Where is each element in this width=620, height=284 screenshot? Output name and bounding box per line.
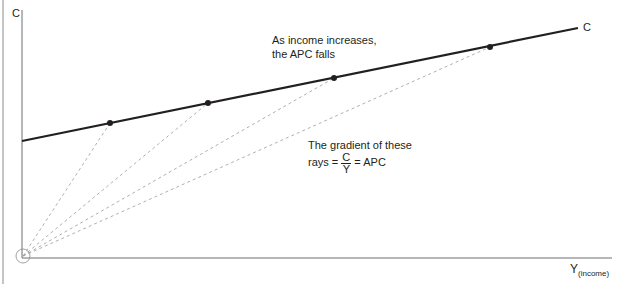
gradient-suffix: = APC xyxy=(354,156,386,168)
x-axis-label-main: Y xyxy=(570,262,578,276)
x-axis-label: Y(income) xyxy=(570,262,609,281)
fraction: CY xyxy=(341,152,351,175)
y-axis-label: C xyxy=(12,6,20,20)
gradient-prefix: rays = xyxy=(308,156,338,168)
fraction-den: Y xyxy=(341,164,351,175)
annotation-gradient-2: rays = CY = APC xyxy=(308,152,386,175)
annotation-gradient-1: The gradient of these xyxy=(308,138,412,152)
line-label: C xyxy=(583,20,591,34)
annotation-top-2: the APC falls xyxy=(272,47,335,61)
x-axis-label-sub: (income) xyxy=(578,269,609,278)
annotation-top-1: As income increases, xyxy=(272,33,377,47)
rays xyxy=(23,47,490,256)
